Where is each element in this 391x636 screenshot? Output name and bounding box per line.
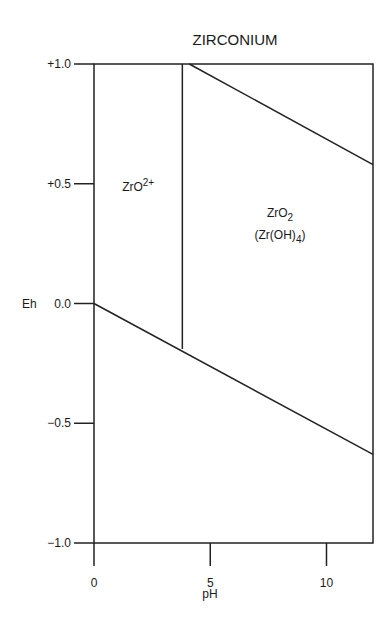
- x-tick-label: 10: [320, 576, 334, 590]
- y-axis-label: Eh: [22, 297, 37, 311]
- x-tick-label: 0: [91, 576, 98, 590]
- pourbaix-diagram: ZIRCONIUM +1.0+0.50.0−0.5−1.0 0510 ZrO2+…: [0, 0, 391, 636]
- y-tick-label: −1.0: [47, 536, 71, 550]
- x-axis: 0510: [91, 543, 334, 590]
- y-tick-label: +0.5: [47, 177, 71, 191]
- y-axis: +1.0+0.50.0−0.5−1.0: [47, 57, 94, 550]
- region-labels: ZrO2+ZrO2(Zr(OH)4): [122, 177, 305, 245]
- region-label: ZrO2+: [122, 177, 154, 194]
- plot-border: [94, 64, 373, 543]
- boundary-lines: [94, 64, 373, 454]
- boundary-line-lower-boundary: [94, 304, 373, 455]
- y-tick-label: +1.0: [47, 57, 71, 71]
- x-axis-label: pH: [202, 587, 217, 601]
- y-tick-label: 0.0: [54, 297, 71, 311]
- region-label: ZrO2: [267, 206, 294, 223]
- chart-title: ZIRCONIUM: [193, 31, 278, 48]
- boundary-line-upper-boundary: [189, 64, 373, 165]
- y-tick-label: −0.5: [47, 416, 71, 430]
- plot-frame: [94, 64, 373, 543]
- region-label-alt: (Zr(OH)4): [255, 228, 306, 245]
